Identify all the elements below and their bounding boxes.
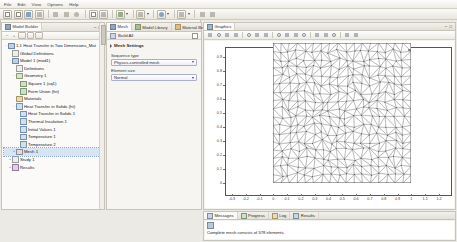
- model-tree-scrollbar-thumb[interactable]: [101, 25, 106, 45]
- plot-dropdown-icon[interactable]: [167, 13, 169, 15]
- settings-menu-icon[interactable]: [192, 33, 198, 39]
- tree-node[interactable]: Square 1 (sq1): [4, 80, 102, 88]
- preferences-icon[interactable]: [198, 10, 207, 19]
- collapse-all-icon[interactable]: −: [4, 33, 10, 39]
- reset-view-icon[interactable]: [343, 31, 351, 39]
- menu-item-file[interactable]: File: [4, 2, 11, 7]
- help-toolbar-icon[interactable]: [208, 10, 217, 19]
- section-expander-icon[interactable]: [110, 44, 112, 48]
- undo-icon[interactable]: [51, 10, 60, 19]
- tree-node[interactable]: Heat Transfer in Solids 1: [4, 110, 102, 118]
- tab-log[interactable]: Log: [269, 212, 291, 219]
- tree-node[interactable]: Form Union (fin): [4, 88, 102, 96]
- filter-icon[interactable]: [27, 32, 35, 40]
- tab-results[interactable]: Results: [290, 212, 318, 219]
- root-icon[interactable]: [35, 32, 43, 40]
- tree-node[interactable]: +Results: [4, 164, 102, 172]
- tree-node[interactable]: -Geometry 1: [4, 72, 102, 80]
- build-mesh-dropdown-icon[interactable]: [126, 13, 128, 15]
- copy-icon[interactable]: [72, 10, 81, 19]
- transparency-icon[interactable]: [262, 31, 270, 39]
- model-tree-scrollbar[interactable]: [99, 23, 104, 209]
- build-mesh-icon[interactable]: [116, 10, 125, 19]
- tree-node-label: Heat Transfer in Solids 1: [28, 110, 75, 118]
- model-tree[interactable]: -1.1 Heat Transfer in Two Dimensions_Mat…: [2, 40, 104, 171]
- zoom-in-icon[interactable]: [206, 31, 214, 39]
- show-icon[interactable]: [18, 32, 26, 40]
- temperature-icon: [20, 141, 27, 148]
- open-file-icon[interactable]: [14, 10, 23, 19]
- physics-icon: [16, 103, 23, 110]
- mesh-plot[interactable]: -0.3-0.2-0.100.10.20.30.40.50.60.70.80.9…: [205, 41, 454, 208]
- menu-item-help[interactable]: Help: [69, 2, 78, 7]
- select-edges-icon[interactable]: [283, 31, 291, 39]
- mesh-icon: [110, 24, 116, 30]
- zoom-extents-icon[interactable]: [157, 10, 166, 19]
- grid-icon[interactable]: [352, 31, 360, 39]
- tree-node[interactable]: Definitions: [4, 65, 102, 73]
- mesh-settings-section-header[interactable]: Mesh Settings: [107, 40, 201, 50]
- zoom-box-icon[interactable]: [232, 31, 240, 39]
- select-points-icon[interactable]: [275, 31, 283, 39]
- tree-node[interactable]: -1.1 Heat Transfer in Two Dimensions_Mat: [4, 42, 102, 50]
- tree-node[interactable]: +Study 1: [4, 156, 102, 164]
- image-snapshot-icon[interactable]: [322, 31, 330, 39]
- model-library-icon[interactable]: [177, 10, 186, 19]
- sequence-type-select[interactable]: Physics-controlled mesh: [111, 59, 197, 66]
- paste-icon[interactable]: [89, 10, 98, 19]
- compute-dropdown-icon[interactable]: [147, 13, 149, 15]
- maximize-icon[interactable]: □: [449, 24, 452, 29]
- select-boundaries-icon[interactable]: [292, 31, 300, 39]
- temperature-icon: [20, 134, 27, 141]
- tree-node[interactable]: Materials: [4, 95, 102, 103]
- graphics-canvas[interactable]: -0.3-0.2-0.100.10.20.30.40.50.60.70.80.9…: [205, 41, 454, 208]
- scene-light-icon[interactable]: [253, 31, 261, 39]
- tab-messages[interactable]: Messages: [204, 212, 238, 219]
- x-tick-label: 0.4: [324, 197, 334, 201]
- menu-item-edit[interactable]: Edit: [17, 2, 25, 7]
- graphics-panel-controls[interactable]: – □: [442, 24, 455, 29]
- compute-icon[interactable]: [136, 10, 145, 19]
- tab-progress[interactable]: Progress: [238, 212, 269, 219]
- x-tick: [384, 194, 385, 196]
- save-icon[interactable]: [24, 10, 33, 19]
- graphics-toolbar-separator: [272, 32, 273, 38]
- redo-icon[interactable]: [62, 10, 71, 19]
- tree-node[interactable]: -Model 1 (mod1): [4, 57, 102, 65]
- library-dropdown-icon[interactable]: [188, 13, 190, 15]
- zoom-out-icon[interactable]: [215, 31, 223, 39]
- tree-node[interactable]: Temperature 2: [4, 141, 102, 149]
- tree-node[interactable]: Initial Values 1: [4, 126, 102, 134]
- delete-icon[interactable]: [99, 10, 108, 19]
- chevron-down-icon[interactable]: [192, 77, 194, 79]
- go-to-default-view-icon[interactable]: [245, 31, 253, 39]
- measure-icon[interactable]: [313, 31, 321, 39]
- tab-model-builder[interactable]: Model Builder: [2, 23, 42, 31]
- square-icon: [20, 81, 27, 88]
- select-domains-icon[interactable]: [300, 31, 308, 39]
- zoom-extents-icon[interactable]: [223, 31, 231, 39]
- minimize-icon[interactable]: –: [445, 24, 448, 29]
- element-size-field: Element size Normal: [107, 68, 201, 81]
- minimize-icon[interactable]: –: [94, 25, 97, 30]
- message-text: Complete mesh consists of 578 elements.: [207, 230, 452, 235]
- tree-node[interactable]: Global Definitions: [4, 50, 102, 58]
- menu-item-view[interactable]: View: [31, 2, 41, 7]
- element-size-select[interactable]: Normal: [111, 74, 197, 81]
- tab-graphics[interactable]: Graphics: [204, 23, 235, 30]
- progress-icon: [241, 213, 247, 219]
- x-tick-label: 0.9: [393, 197, 403, 201]
- tree-node[interactable]: Thermal Insulation 1: [4, 118, 102, 126]
- tab-mesh[interactable]: Mesh: [107, 23, 132, 31]
- expand-all-icon[interactable]: +: [11, 33, 17, 39]
- new-file-icon[interactable]: [3, 10, 12, 19]
- tree-node[interactable]: Temperature 1: [4, 133, 102, 141]
- tree-node[interactable]: +Mesh 1: [4, 148, 102, 156]
- chevron-down-icon[interactable]: [192, 61, 194, 63]
- tree-node[interactable]: -Heat Transfer in Solids (ht): [4, 103, 102, 111]
- thermal-insulation-icon: [20, 118, 27, 125]
- print-icon[interactable]: [35, 10, 44, 19]
- tab-model-library[interactable]: Model Library: [132, 23, 172, 31]
- menu-item-options[interactable]: Options: [47, 2, 63, 7]
- print-graphics-icon[interactable]: [330, 31, 338, 39]
